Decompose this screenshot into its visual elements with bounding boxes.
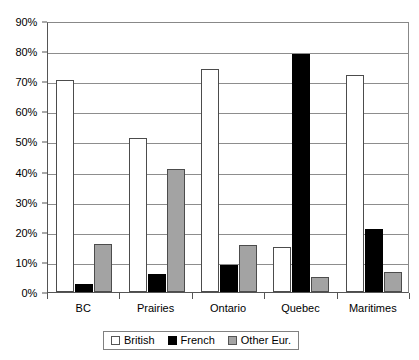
x-tick-mark — [119, 293, 120, 299]
x-category-label: Ontario — [210, 302, 246, 314]
x-category-label: Maritimes — [349, 302, 397, 314]
x-category-label: BC — [76, 302, 91, 314]
y-tick-label: 80% — [16, 46, 37, 58]
y-axis: 0%10%20%30%40%50%60%70%80%90% — [0, 0, 47, 320]
bar-group-prairies — [120, 23, 192, 292]
bar-french-bc — [75, 284, 93, 292]
legend-label: French — [181, 334, 215, 346]
x-tick-mark — [264, 293, 265, 299]
bar-group-ontario — [193, 23, 265, 292]
y-tick-label: 50% — [16, 136, 37, 148]
x-tick-mark — [47, 293, 48, 299]
bar-other-prairies — [167, 169, 185, 292]
x-tick-mark — [337, 293, 338, 299]
bar-british-prairies — [129, 138, 147, 292]
x-tick-mark — [409, 293, 410, 299]
bar-french-ontario — [220, 265, 238, 292]
y-tick-label: 20% — [16, 227, 37, 239]
bar-british-ontario — [201, 69, 219, 292]
legend-swatch-other-icon — [228, 336, 237, 345]
legend-swatch-french-icon — [168, 336, 177, 345]
bar-other-quebec — [311, 277, 329, 292]
legend-entry-other: Other Eur. — [228, 334, 291, 346]
legend-entry-french: French — [168, 334, 215, 346]
bar-other-maritimes — [384, 272, 402, 292]
bar-group-maritimes — [338, 23, 410, 292]
y-tick-label: 70% — [16, 76, 37, 88]
bar-group-bc — [48, 23, 120, 292]
y-tick-label: 0% — [22, 287, 38, 299]
legend-label: Other Eur. — [241, 334, 291, 346]
legend-entry-british: British — [111, 334, 155, 346]
chart-legend: BritishFrenchOther Eur. — [103, 331, 299, 350]
bar-french-maritimes — [365, 229, 383, 292]
bar-british-maritimes — [346, 75, 364, 292]
y-tick-label: 10% — [16, 257, 37, 269]
y-tick-label: 30% — [16, 197, 37, 209]
plot-area — [47, 22, 409, 293]
y-tick-label: 60% — [16, 106, 37, 118]
bar-group-quebec — [265, 23, 337, 292]
legend-swatch-british-icon — [111, 336, 120, 345]
x-category-label: Prairies — [137, 302, 174, 314]
x-tick-mark — [192, 293, 193, 299]
bar-british-quebec — [273, 247, 291, 292]
x-category-label: Quebec — [281, 302, 320, 314]
y-tick-label: 40% — [16, 167, 37, 179]
bar-other-bc — [94, 244, 112, 292]
bar-french-prairies — [148, 274, 166, 292]
bar-other-ontario — [239, 245, 257, 292]
y-tick-label: 90% — [16, 16, 37, 28]
bar-chart: 0%10%20%30%40%50%60%70%80%90% BCPrairies… — [0, 0, 419, 360]
legend-label: British — [124, 334, 155, 346]
bar-british-bc — [56, 80, 74, 292]
bar-french-quebec — [292, 54, 310, 292]
